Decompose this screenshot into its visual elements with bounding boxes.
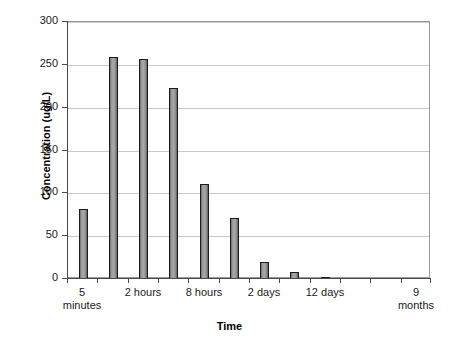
- bar-5: [230, 218, 239, 279]
- bar-1: [109, 57, 118, 279]
- bar-0: [79, 209, 88, 279]
- x-tick-label-4: 12 days: [295, 286, 355, 299]
- bar-chart: 300 250 200 150 100 50 0 Concentration (…: [0, 0, 459, 348]
- y-tick-100: [62, 192, 67, 193]
- gridline-50: [68, 236, 429, 237]
- x-tick-4: [188, 278, 189, 283]
- x-tick-label-4-line1: 12 days: [306, 286, 345, 298]
- x-tick-1: [97, 278, 98, 283]
- x-tick-label-5-line2: months: [386, 299, 446, 312]
- x-tick-2: [128, 278, 129, 283]
- x-tick-label-5: 9 months: [386, 286, 446, 312]
- gridline-100: [68, 193, 429, 194]
- gridline-150: [68, 151, 429, 152]
- x-tick-12: [430, 278, 431, 283]
- bar-3: [169, 88, 178, 279]
- y-axis-title-wrap: Concentration (ug/L): [14, 40, 28, 230]
- x-tick-label-5-line1: 9: [413, 286, 419, 298]
- bar-6: [260, 262, 269, 279]
- bar-4: [200, 184, 209, 279]
- gridline-300: [68, 22, 429, 23]
- x-tick-label-3: 2 days: [234, 286, 294, 299]
- gridline-200: [68, 108, 429, 109]
- x-tick-3: [158, 278, 159, 283]
- x-tick-5: [219, 278, 220, 283]
- y-tick-200: [62, 107, 67, 108]
- bar-2: [139, 59, 148, 279]
- x-tick-label-2-line1: 8 hours: [186, 286, 223, 298]
- y-tick-50: [62, 235, 67, 236]
- y-tick-250: [62, 64, 67, 65]
- x-tick-label-0: 5 minutes: [52, 286, 112, 312]
- x-tick-6: [249, 278, 250, 283]
- x-tick-10: [370, 278, 371, 283]
- x-tick-8: [310, 278, 311, 283]
- x-tick-9: [340, 278, 341, 283]
- y-axis-title: Concentration (ug/L): [40, 51, 52, 241]
- x-tick-label-0-line1: 5: [79, 286, 85, 298]
- x-tick-label-3-line1: 2 days: [248, 286, 280, 298]
- y-tick-300: [62, 21, 67, 22]
- y-tick-150: [62, 150, 67, 151]
- x-tick-label-1: 2 hours: [113, 286, 173, 299]
- gridline-250: [68, 65, 429, 66]
- x-tick-11: [401, 278, 402, 283]
- x-axis-title: Time: [0, 320, 459, 332]
- x-tick-label-1-line1: 2 hours: [125, 286, 162, 298]
- y-axis-line: [67, 21, 68, 279]
- x-tick-label-0-line2: minutes: [52, 299, 112, 312]
- x-tick-7: [279, 278, 280, 283]
- y-tick-label-300: 300: [22, 15, 58, 26]
- x-tick-0: [67, 278, 68, 283]
- x-tick-label-2: 8 hours: [174, 286, 234, 299]
- y-tick-label-0: 0: [22, 272, 58, 283]
- plot-area: [67, 21, 430, 278]
